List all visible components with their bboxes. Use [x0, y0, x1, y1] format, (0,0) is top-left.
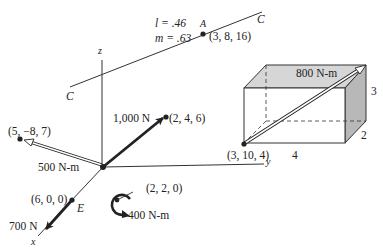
origin-dot — [100, 164, 106, 170]
moment-800-point — [241, 141, 246, 146]
line-c-end-label: C — [257, 14, 265, 26]
point-e-label: E — [77, 203, 84, 215]
force-700-label: 700 N — [9, 221, 37, 233]
moment-500-point-label: (5, −8, 7) — [8, 126, 51, 138]
y-axis — [103, 164, 264, 167]
vector-diagram: l = .46 m = .63 A (3, 8, 16) C C z y x 1… — [0, 0, 383, 249]
l-label: l = .46 — [155, 18, 186, 30]
point-a-dot — [200, 31, 205, 36]
line-c-start-label: C — [66, 91, 74, 103]
box-depth-label: 2 — [361, 130, 367, 142]
force-700-point-label: (6, 0, 0) — [31, 194, 67, 206]
diagram-graphics — [0, 0, 383, 249]
force-1000-point-label: (2, 4, 6) — [169, 113, 205, 125]
x-axis-label: x — [31, 237, 35, 247]
force-1000-label: 1,000 N — [113, 113, 150, 125]
moment-400-point-label: (2, 2, 0) — [146, 183, 182, 195]
force-1000-point — [163, 114, 168, 119]
moment-800-point-label: (3, 10, 4) — [227, 150, 269, 162]
moment-800-label: 800 N-m — [296, 68, 337, 80]
moment-500-label: 500 N-m — [38, 162, 79, 174]
point-a-label: A — [200, 19, 206, 29]
z-axis-label: z — [98, 46, 102, 56]
box-width-label: 4 — [292, 150, 298, 162]
m-label: m = .63 — [155, 33, 191, 45]
force-1000-arrow — [103, 118, 163, 167]
box-height-label: 3 — [371, 86, 377, 98]
moment-400-label: 400 N-m — [128, 210, 169, 222]
point-a-coords: (3, 8, 16) — [209, 31, 251, 43]
